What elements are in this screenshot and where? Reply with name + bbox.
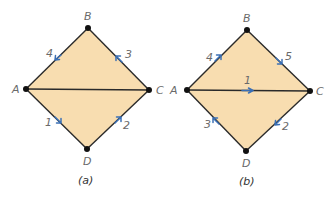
node-a-B: [85, 25, 91, 31]
diagram-a: A B C D 4 3 2 1 (a): [11, 10, 164, 187]
node-b-D: [243, 148, 249, 154]
node-label-b-B: B: [243, 12, 251, 25]
node-a-A: [23, 86, 29, 92]
edge-label-a-3: 3: [125, 48, 132, 61]
node-label-a-C: C: [156, 84, 164, 97]
node-label-b-C: C: [316, 85, 324, 98]
edge-a-AC: [26, 89, 149, 90]
node-b-A: [184, 87, 190, 93]
edge-label-b-3: 3: [204, 118, 211, 131]
node-label-b-D: D: [242, 157, 250, 170]
caption-a: (a): [78, 174, 93, 187]
edge-label-a-4: 4: [46, 47, 53, 60]
node-label-a-A: A: [11, 83, 20, 96]
edge-label-b-4: 4: [206, 51, 213, 64]
node-a-C: [146, 87, 152, 93]
edge-label-b-5: 5: [285, 50, 292, 63]
diagram-b: A B C D 4 5 2 3 1 (b): [169, 12, 324, 188]
node-label-b-A: A: [169, 84, 178, 97]
caption-b: (b): [239, 175, 255, 188]
edge-label-a-1: 1: [45, 116, 52, 129]
node-a-D: [84, 146, 90, 152]
edge-label-b-1: 1: [244, 74, 251, 87]
node-label-a-D: D: [83, 155, 91, 168]
diagram-stage: A B C D 4 3 2 1 (a): [0, 0, 332, 198]
node-b-B: [244, 27, 250, 33]
node-b-C: [307, 88, 313, 94]
edge-label-a-2: 2: [123, 119, 130, 132]
node-label-a-B: B: [84, 10, 92, 23]
edge-label-b-2: 2: [282, 120, 289, 133]
